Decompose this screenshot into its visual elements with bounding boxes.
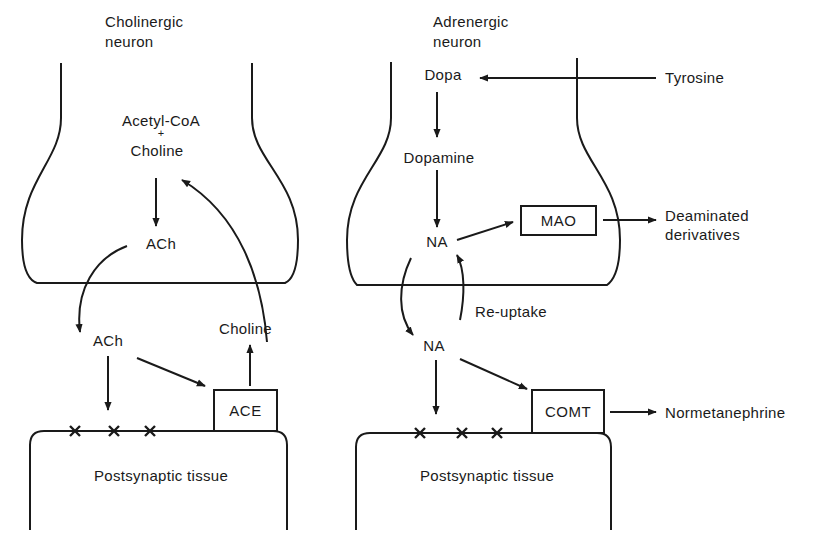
reuptake-label: Re-uptake [475,303,547,321]
arrow-choline-reuptake [182,180,267,342]
mao-label: MAO [521,206,596,235]
choline-precursor-label: Choline [131,142,184,160]
cholinergic-postsynaptic-label: Postsynaptic tissue [94,467,228,485]
ach-inside-label: ACh [146,235,176,253]
ace-label: ACE [214,390,277,431]
arrow-na-reuptake [457,255,463,320]
cholinergic-neuron-label: Cholinergic [105,13,183,31]
choline-cleft-label: Choline [219,320,272,338]
adrenergic-neuron-label-2: neuron [433,33,482,51]
tyrosine-label: Tyrosine [665,69,724,87]
arrow-na-to-comt [460,359,527,389]
adrenergic-neuron-outline [347,58,620,285]
adrenergic-postsynaptic-label: Postsynaptic tissue [420,467,554,485]
dopa-label: Dopa [424,66,461,84]
deaminated-label: Deaminated [665,207,749,225]
arrow-na-release [401,258,413,335]
ach-cleft-label: ACh [93,332,123,350]
cholinergic-neuron-label-2: neuron [105,33,154,51]
dopamine-label: Dopamine [404,149,475,167]
na-inside-label: NA [426,233,447,251]
arrow-ach-to-ace [137,358,205,386]
adrenergic-neuron-label: Adrenergic [433,13,509,31]
normetanephrine-label: Normetanephrine [665,404,785,422]
comt-label: COMT [532,390,604,433]
plus-sign: + [158,127,165,139]
deaminated-label-2: derivatives [665,226,740,244]
arrow-na-to-mao [457,222,513,240]
arrow-ach-release [79,246,127,332]
na-cleft-label: NA [423,337,444,355]
